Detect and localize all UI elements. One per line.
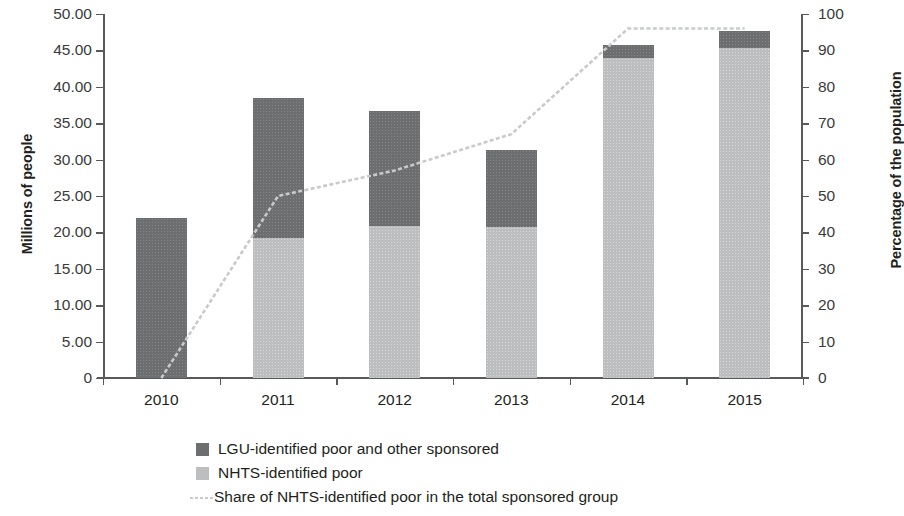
y-tick-mark-left (96, 87, 103, 88)
legend-item[interactable]: LGU-identified poor and other sponsored (196, 437, 856, 461)
y-tick-label-left: 0 (83, 370, 92, 386)
y-tick-mark-right (802, 14, 809, 15)
y-axis-right-ticks: 0102030405060708090100 (818, 0, 892, 400)
y-tick-label-left: 10.00 (53, 297, 92, 313)
y-tick-mark-right (802, 50, 809, 51)
y-tick-mark-right (802, 269, 809, 270)
y-tick-mark-left (96, 269, 103, 270)
legend-color-swatch-icon (196, 443, 209, 456)
x-tick-mark (220, 377, 221, 385)
y-tick-label-right: 90 (818, 42, 835, 58)
legend-item-label: NHTS-identified poor (218, 464, 363, 482)
y-tick-label-right: 10 (818, 334, 835, 350)
y-tick-mark-right (802, 123, 809, 124)
y-tick-mark-right (802, 232, 809, 233)
y-tick-label-left: 30.00 (53, 152, 92, 168)
y-tick-label-left: 20.00 (53, 224, 92, 240)
y-tick-mark-right (802, 196, 809, 197)
y-tick-label-right: 40 (818, 224, 835, 240)
x-tick-label: 2011 (238, 391, 318, 409)
y-tick-label-right: 30 (818, 261, 835, 277)
y-tick-mark-right (802, 160, 809, 161)
x-tick-mark (103, 377, 104, 385)
y-tick-mark-left (96, 14, 103, 15)
y-tick-label-left: 40.00 (53, 79, 92, 95)
y-tick-label-right: 0 (818, 370, 827, 386)
x-tick-label: 2013 (471, 391, 551, 409)
y-tick-label-left: 50.00 (53, 6, 92, 22)
x-tick-label: 2012 (355, 391, 435, 409)
y-tick-mark-left (96, 342, 103, 343)
y-tick-label-right: 100 (818, 6, 844, 22)
y-tick-mark-left (96, 50, 103, 51)
plot-area (103, 14, 803, 378)
x-tick-label: 2014 (588, 391, 668, 409)
y-tick-label-left: 45.00 (53, 42, 92, 58)
x-tick-label: 2015 (705, 391, 785, 409)
y-tick-label-right: 50 (818, 188, 835, 204)
legend-item[interactable]: Share of NHTS-identified poor in the tot… (196, 485, 856, 509)
legend-item-label: Share of NHTS-identified poor in the tot… (214, 488, 618, 506)
y-tick-mark-left (96, 160, 103, 161)
legend-item[interactable]: NHTS-identified poor (196, 461, 856, 485)
x-tick-mark (336, 377, 337, 385)
chart-legend: LGU-identified poor and other sponsoredN… (196, 437, 856, 509)
x-tick-label: 2010 (121, 391, 201, 409)
y-tick-mark-left (96, 196, 103, 197)
y-axis-left-ticks: 05.0010.0015.0020.0025.0030.0035.0040.00… (0, 0, 92, 400)
legend-line-swatch-icon (190, 491, 214, 504)
legend-color-swatch-icon (196, 467, 209, 480)
y-tick-label-right: 70 (818, 115, 835, 131)
y-tick-mark-left (96, 123, 103, 124)
y-tick-mark-right (802, 305, 809, 306)
y-tick-label-right: 20 (818, 297, 835, 313)
x-tick-mark (453, 377, 454, 385)
y-tick-mark-left (96, 378, 103, 379)
y-tick-mark-left (96, 305, 103, 306)
y-tick-label-right: 80 (818, 79, 835, 95)
x-tick-mark (686, 377, 687, 385)
y-tick-label-left: 5.00 (62, 334, 92, 350)
y-tick-label-right: 60 (818, 152, 835, 168)
legend-item-label: LGU-identified poor and other sponsored (218, 440, 499, 458)
line-series (103, 14, 803, 378)
y-tick-mark-right (802, 342, 809, 343)
y-tick-label-left: 25.00 (53, 188, 92, 204)
line-share-nhts-poor[interactable] (161, 29, 744, 378)
x-tick-mark (803, 377, 804, 385)
x-tick-mark (570, 377, 571, 385)
y-tick-label-left: 15.00 (53, 261, 92, 277)
y-tick-mark-left (96, 232, 103, 233)
y-tick-mark-right (802, 87, 809, 88)
y-tick-label-left: 35.00 (53, 115, 92, 131)
